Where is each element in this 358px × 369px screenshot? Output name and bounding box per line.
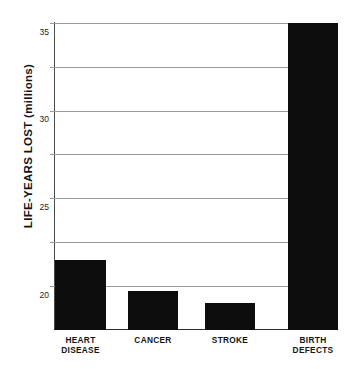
y-tick-label-25: 25: [40, 202, 49, 212]
tick-mark-20: [50, 154, 54, 155]
category-label: STROKE: [212, 335, 248, 345]
plot-area: 5101520253035 HEART DISEASECANCERSTROKEB…: [54, 14, 338, 330]
gridline-25: 25: [54, 111, 288, 112]
category-label: BIRTH DEFECTS: [293, 335, 334, 355]
y-tick-label-30: 30: [40, 114, 49, 124]
bar: [55, 260, 106, 330]
bar: [205, 303, 255, 330]
y-tick-label-20: 20: [40, 290, 49, 300]
tick-mark-25: [50, 111, 54, 112]
y-axis-title: LIFE-YEARS LOST (millions): [22, 36, 34, 256]
tick-mark-5: [50, 286, 54, 287]
gridline-20: 20: [54, 154, 288, 155]
bar: [288, 23, 338, 330]
y-tick-label-35: 35: [40, 27, 49, 37]
tick-mark-35: [50, 23, 54, 24]
bar-chart: LIFE-YEARS LOST (millions) 5101520253035…: [0, 0, 358, 369]
gridline-15: 15: [54, 198, 288, 199]
category-label: HEART DISEASE: [61, 335, 100, 355]
tick-mark-10: [50, 242, 54, 243]
gridline-10: 10: [54, 242, 288, 243]
gridline-35: 35: [54, 23, 288, 24]
gridline-30: 30: [54, 67, 288, 68]
bar: [128, 291, 178, 330]
tick-mark-30: [50, 67, 54, 68]
category-label: CANCER: [134, 335, 171, 345]
tick-mark-15: [50, 198, 54, 199]
